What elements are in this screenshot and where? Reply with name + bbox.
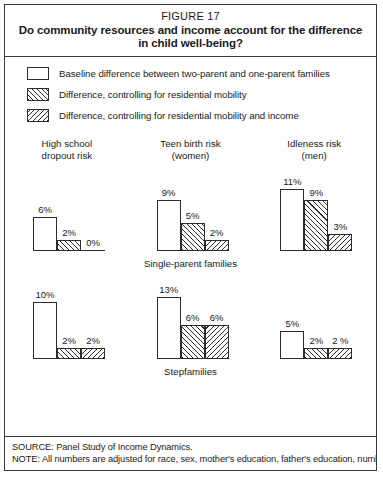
bar-column: 2 % <box>328 285 352 359</box>
bar-column: 6% <box>181 285 205 359</box>
bar-series-3 <box>205 240 229 251</box>
bar-series-3 <box>81 250 105 251</box>
chart-row-stepfamilies: 10%2%2%13%6%6%Stepfamilies5%2%2 % <box>5 269 376 377</box>
figure-panel: FIGURE 17 Do community resources and inc… <box>4 4 377 471</box>
legend-swatch-back-hatch-icon <box>27 109 49 122</box>
bar-series-2 <box>181 223 205 251</box>
bar-series-3 <box>205 325 229 359</box>
bar-value-label: 13% <box>159 285 178 295</box>
column-header-line1: Teen birth risk <box>160 138 220 149</box>
bar-series-1 <box>33 302 57 359</box>
bar-series-3 <box>328 348 352 359</box>
bar-series-3 <box>328 234 352 251</box>
bar-series-2 <box>57 240 81 251</box>
bar-group-1: 10%2%2% <box>5 269 129 377</box>
chart-row-single-parent: 6%2%0%9%5%2%Single-parent families11%9%3… <box>5 161 376 269</box>
column-header-line2: (women) <box>172 150 210 161</box>
bar-column: 10% <box>33 285 57 359</box>
bar-column: 0% <box>81 177 105 251</box>
legend-item: Difference, controlling for residential … <box>27 107 376 124</box>
plot-area: 5%2%2 % <box>252 285 376 359</box>
column-header-line2: dropout risk <box>42 150 93 161</box>
bar-column: 2% <box>81 285 105 359</box>
bar-value-label: 3% <box>333 222 347 232</box>
bar-series-1 <box>157 297 181 359</box>
group-label: Stepfamilies <box>129 366 253 377</box>
column-header-line2: (men) <box>302 150 327 161</box>
bar-value-label: 9% <box>309 188 323 198</box>
bar-group-1: 6%2%0% <box>5 161 129 269</box>
plot-area: 10%2%2% <box>5 285 129 359</box>
bar-value-label: 9% <box>162 188 176 198</box>
column-header-3: Idleness risk(men) <box>252 138 376 161</box>
bar-value-label: 5% <box>285 319 299 329</box>
plot-area: 9%5%2% <box>129 177 253 251</box>
bar-column: 13% <box>157 285 181 359</box>
group-label: Single-parent families <box>129 258 253 269</box>
bar-series-2 <box>181 325 205 359</box>
bar-series-1 <box>280 331 304 359</box>
bar-column: 9% <box>304 177 328 251</box>
bar-value-label: 0% <box>86 238 100 248</box>
bar-column: 6% <box>33 177 57 251</box>
bar-value-label: 6% <box>38 205 52 215</box>
plot-area: 13%6%6% <box>129 285 253 359</box>
column-headers: High schooldropout riskTeen birth risk(w… <box>5 138 376 161</box>
bar-group-2: 9%5%2%Single-parent families <box>129 161 253 269</box>
column-header-line1: Idleness risk <box>287 138 341 149</box>
bar-series-2 <box>304 200 328 251</box>
column-header-line1: High school <box>42 138 93 149</box>
plot-area: 11%9%3% <box>252 177 376 251</box>
bar-value-label: 6% <box>210 313 224 323</box>
legend-swatch-forward-hatch-icon <box>27 88 49 101</box>
bar-value-label: 2% <box>309 336 323 346</box>
bar-series-2 <box>57 348 81 359</box>
source-note: SOURCE: Panel Study of Income Dynamics. <box>12 442 369 454</box>
title-block: FIGURE 17 Do community resources and inc… <box>5 5 376 57</box>
plot-area: 6%2%0% <box>5 177 129 251</box>
figure-title-line2: in child well-being? <box>138 37 243 49</box>
column-header-2: Teen birth risk(women) <box>129 138 253 161</box>
figure-title-line1: Do community resources and income accoun… <box>19 24 363 36</box>
bar-series-1 <box>157 200 181 251</box>
bar-column: 2% <box>57 285 81 359</box>
bar-series-1 <box>33 217 57 251</box>
bar-series-3 <box>81 348 105 359</box>
methodology-note: NOTE: All numbers are adjusted for race,… <box>12 454 369 466</box>
legend-item-label: Baseline difference between two-parent a… <box>59 68 330 79</box>
bar-column: 3% <box>328 177 352 251</box>
bar-column: 9% <box>157 177 181 251</box>
bar-value-label: 2% <box>86 336 100 346</box>
bar-column: 5% <box>280 285 304 359</box>
bar-column: 6% <box>205 285 229 359</box>
bar-group-2: 13%6%6%Stepfamilies <box>129 269 253 377</box>
legend-item: Baseline difference between two-parent a… <box>27 65 376 82</box>
bar-column: 5% <box>181 177 205 251</box>
bar-value-label: 11% <box>283 177 301 187</box>
column-header-1: High schooldropout risk <box>5 138 129 161</box>
legend-item-label: Difference, controlling for residential … <box>59 89 247 100</box>
legend-item: Difference, controlling for residential … <box>27 86 376 103</box>
bar-value-label: 6% <box>186 313 200 323</box>
bar-series-2 <box>304 348 328 359</box>
bar-column: 2% <box>57 177 81 251</box>
bar-column: 2% <box>304 285 328 359</box>
bar-value-label: 2% <box>62 336 76 346</box>
legend-swatch-plain-icon <box>27 67 49 80</box>
bar-value-label: 2 % <box>332 336 348 346</box>
bar-value-label: 2% <box>62 228 76 238</box>
figure-number: FIGURE 17 <box>15 10 366 22</box>
chart-legend: Baseline difference between two-parent a… <box>5 57 376 132</box>
bar-column: 2% <box>205 177 229 251</box>
bar-value-label: 10% <box>35 290 54 300</box>
bar-series-1 <box>280 189 304 251</box>
footnotes: SOURCE: Panel Study of Income Dynamics. … <box>5 436 376 470</box>
bar-value-label: 5% <box>186 211 200 221</box>
page-title: Do community resources and income accoun… <box>15 24 366 50</box>
legend-item-label: Difference, controlling for residential … <box>59 110 299 121</box>
bar-group-3: 5%2%2 % <box>252 269 376 377</box>
bar-column: 11% <box>280 177 304 251</box>
bar-group-3: 11%9%3% <box>252 161 376 269</box>
bar-value-label: 2% <box>210 228 224 238</box>
